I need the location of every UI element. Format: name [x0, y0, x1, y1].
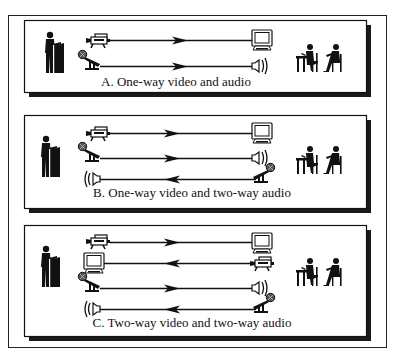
panel-c-caption: C. Two-way video and two-way audio: [93, 315, 292, 330]
monitor-icon: [252, 123, 272, 143]
monitor-icon: [252, 30, 272, 50]
monitor-icon: [252, 233, 272, 253]
monitor-icon: [84, 253, 104, 273]
panel-c: C. Two-way video and two-way audio: [25, 226, 372, 342]
panel-b: B. One-way video and two-way audio: [25, 116, 372, 214]
panel-a-caption: A. One-way video and audio: [101, 74, 251, 89]
panel-b-caption: B. One-way video and two-way audio: [93, 185, 291, 200]
figure: A. One-way video and audio B. One-way vi…: [0, 0, 399, 360]
panel-a: A. One-way video and audio: [25, 21, 372, 98]
